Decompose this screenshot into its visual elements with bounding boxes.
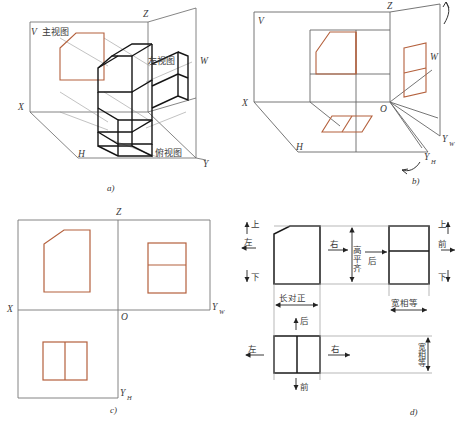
ray-1 [60, 38, 108, 66]
label-front-top-view: 前 [300, 382, 309, 392]
fold-diag [310, 102, 340, 126]
ray-2 [104, 38, 150, 66]
label-y: Y [203, 159, 210, 169]
label-yw-c: Y W [212, 302, 225, 315]
panel-c-drawing: Z X O Y W Y H [0, 200, 232, 415]
panel-a-drawing: V Z W X H Y 主视图 左视图 俯视图 [0, 0, 232, 180]
label-h: H [77, 149, 86, 159]
label-z: Z [143, 9, 149, 19]
label-z-c: Z [116, 207, 122, 217]
caption-b: b) [412, 176, 420, 186]
label-x-b: X [241, 98, 249, 108]
label-up-front: 上 [251, 219, 260, 229]
label-left-front: 左 [244, 237, 253, 247]
label-rule-height: 高平齐 [351, 245, 361, 273]
label-x-c: X [6, 304, 14, 314]
svg-text:Y: Y [424, 152, 431, 162]
svg-text:W: W [219, 308, 225, 315]
svg-text:H: H [430, 158, 436, 165]
ray-w1 [390, 102, 438, 118]
v-plane-b [254, 12, 390, 102]
svg-text:W: W [449, 140, 455, 147]
label-back-upper: 后 [368, 256, 377, 266]
svg-text:Y: Y [442, 134, 449, 144]
label-left-view: 左视图 [148, 55, 175, 66]
label-front-left-view: 前 [438, 239, 447, 249]
caption-d: d) [410, 407, 418, 417]
label-rule-width-vertical: 宽相等 [417, 342, 426, 367]
h-plane-b [254, 102, 428, 152]
front-view-c [44, 230, 90, 292]
ray-4 [104, 92, 152, 122]
edge-v-to-w-bottom [148, 98, 196, 112]
svg-text:Y: Y [212, 302, 219, 312]
label-yh-b: Y H [424, 152, 436, 165]
top-view-d [274, 336, 320, 373]
label-top-view: 俯视图 [155, 147, 182, 158]
top-view-projection-b [322, 116, 372, 132]
label-back-top-view: 后 [300, 316, 309, 326]
label-w-b: W [430, 52, 439, 62]
caption-c: c) [110, 405, 117, 415]
label-up-left-view: 上 [438, 219, 447, 229]
label-right-upper: 右 [330, 239, 339, 249]
top-view-c [43, 342, 87, 380]
ray-h1 [390, 102, 422, 148]
label-v-b: V [258, 16, 265, 26]
panel-b: V Z W X O H Y W Y H b) [232, 0, 463, 180]
front-view-projection-b [316, 32, 356, 74]
label-front-view: 主视图 [42, 26, 69, 37]
label-o-b: O [380, 104, 387, 114]
left-view-d [389, 226, 429, 284]
label-rule-width: 宽相等 [391, 298, 418, 308]
front-view-d [274, 226, 320, 284]
label-down-front: 下 [251, 272, 260, 282]
panel-d-drawing: 长对正 高平齐 宽相等 宽相等 上 左 下 右 [232, 200, 463, 415]
label-x: X [17, 102, 25, 112]
label-yw-b: Y W [442, 134, 455, 147]
panel-d: 长对正 高平齐 宽相等 宽相等 上 左 下 右 [232, 200, 463, 415]
direction-arrows-top-view [246, 318, 350, 390]
panel-c: Z X O Y W Y H c) [0, 200, 232, 415]
ray-8 [60, 112, 108, 130]
svg-text:H: H [126, 394, 132, 401]
panel-a: V Z W X H Y 主视图 左视图 俯视图 a) [0, 0, 232, 180]
label-yh-c: Y H [120, 388, 132, 401]
edge-to-z [148, 8, 196, 22]
ray-3 [60, 92, 108, 122]
label-o-c: O [121, 312, 128, 322]
label-v: V [31, 27, 38, 37]
label-right-top-view: 右 [331, 344, 340, 354]
svg-text:Y: Y [120, 388, 127, 398]
panel-b-drawing: V Z W X O H Y W Y H [232, 0, 463, 180]
label-z-b: Z [387, 1, 393, 11]
label-rule-length: 长对正 [279, 293, 306, 303]
label-down-left-view: 下 [438, 272, 447, 282]
label-h-b: H [295, 142, 304, 152]
caption-a: a) [107, 183, 115, 193]
label-w: W [200, 56, 209, 66]
label-left-top-view: 左 [248, 344, 257, 354]
left-view-c [148, 243, 186, 293]
